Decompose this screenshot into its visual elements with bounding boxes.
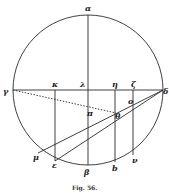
dotted-line-gamma-theta: [13, 90, 116, 113]
label-beta: β: [83, 167, 90, 177]
label-b: b: [112, 163, 118, 173]
label-nu: ν: [132, 155, 138, 165]
label-epsilon: ε: [52, 160, 57, 170]
label-o: o: [128, 96, 134, 106]
line-delta-epsilon: [55, 90, 163, 161]
label-eta: η: [112, 79, 118, 89]
label-zeta: ζ: [131, 79, 137, 89]
line-delta-mu: [38, 90, 163, 153]
label-kappa: κ: [51, 79, 58, 89]
figure-caption: Fig. 56.: [72, 184, 97, 192]
label-pi: π: [86, 108, 93, 118]
label-lambda: λ: [79, 79, 86, 89]
geometry-figure: α γ δ κ λ η ζ π o θ μ ε β b ν Fig. 56.: [0, 0, 169, 196]
label-theta: θ: [115, 111, 121, 121]
label-gamma: γ: [3, 86, 9, 96]
label-alpha: α: [85, 3, 91, 13]
label-mu: μ: [33, 152, 39, 162]
label-delta: δ: [162, 86, 169, 96]
